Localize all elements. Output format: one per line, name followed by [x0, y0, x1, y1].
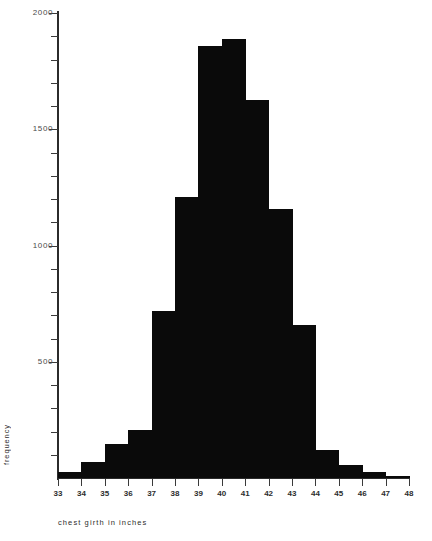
histogram-bar: [362, 472, 386, 478]
histogram-chart: 500100015002000 333435363738394041424344…: [0, 0, 432, 541]
x-tick-label: 47: [374, 489, 398, 498]
y-tick-minor: [51, 60, 58, 61]
x-tick: [269, 479, 270, 486]
x-tick: [386, 479, 387, 486]
y-tick-minor: [51, 385, 58, 386]
y-tick-minor: [51, 176, 58, 177]
x-tick: [58, 479, 59, 486]
x-tick: [152, 479, 153, 486]
x-tick: [81, 479, 82, 486]
y-tick-minor: [51, 83, 58, 84]
x-tick: [222, 479, 223, 486]
histogram-bar: [245, 100, 269, 478]
y-tick-minor: [51, 153, 58, 154]
y-tick-minor: [51, 36, 58, 37]
histogram-bar: [198, 46, 222, 478]
x-tick-label: 44: [303, 489, 327, 498]
x-tick-label: 43: [280, 489, 304, 498]
y-tick-minor: [51, 432, 58, 433]
x-tick: [105, 479, 106, 486]
histogram-bar: [339, 465, 363, 478]
histogram-bar: [128, 430, 152, 478]
histogram-bar: [222, 39, 246, 478]
x-tick: [339, 479, 340, 486]
x-axis-title: chest girth in inches: [58, 518, 147, 527]
y-tick-minor: [51, 106, 58, 107]
x-tick: [198, 479, 199, 486]
x-tick: [315, 479, 316, 486]
y-tick-minor: [51, 408, 58, 409]
histogram-bar: [269, 209, 293, 478]
y-tick-label: 1000: [13, 241, 53, 250]
y-tick-minor: [51, 315, 58, 316]
y-tick-minor: [51, 339, 58, 340]
x-tick-label: 39: [186, 489, 210, 498]
histogram-bar: [105, 444, 129, 478]
histogram-bar: [386, 476, 410, 478]
x-tick-label: 35: [93, 489, 117, 498]
x-tick: [362, 479, 363, 486]
x-tick-label: 45: [327, 489, 351, 498]
histogram-bar: [292, 325, 316, 478]
x-tick-label: 37: [140, 489, 164, 498]
x-tick-label: 40: [210, 489, 234, 498]
histogram-bar: [175, 197, 199, 478]
histogram-bar: [81, 462, 105, 478]
y-tick-label: 2000: [13, 8, 53, 17]
x-tick: [292, 479, 293, 486]
histogram-bar: [315, 450, 339, 478]
x-tick-label: 33: [46, 489, 70, 498]
x-tick-label: 41: [233, 489, 257, 498]
y-tick-label: 1500: [13, 124, 53, 133]
x-tick-label: 36: [116, 489, 140, 498]
x-tick-label: 48: [397, 489, 421, 498]
y-tick-minor: [51, 292, 58, 293]
x-tick-label: 42: [257, 489, 281, 498]
y-tick-minor: [51, 222, 58, 223]
y-tick-minor: [51, 269, 58, 270]
x-tick: [128, 479, 129, 486]
y-tick-minor: [51, 455, 58, 456]
x-tick-label: 34: [69, 489, 93, 498]
y-axis-title: frequency: [2, 424, 11, 465]
y-tick-label: 500: [13, 357, 53, 366]
x-tick: [409, 479, 410, 486]
y-tick-minor: [51, 199, 58, 200]
x-tick-label: 38: [163, 489, 187, 498]
x-tick: [245, 479, 246, 486]
histogram-bar: [58, 472, 82, 478]
x-tick-label: 46: [350, 489, 374, 498]
histogram-bar: [152, 311, 176, 478]
x-tick: [175, 479, 176, 486]
histogram-bars: [58, 13, 409, 478]
